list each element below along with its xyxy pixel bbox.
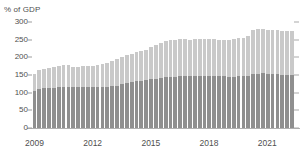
bar xyxy=(81,66,85,128)
bar-segment-lower xyxy=(33,91,37,128)
bar-segment-lower xyxy=(62,87,66,128)
bar-segment-upper xyxy=(290,31,294,75)
bar xyxy=(125,55,129,128)
bar-segment-upper xyxy=(154,45,158,79)
bar xyxy=(217,40,221,128)
bar-segment-upper xyxy=(62,65,66,87)
bar-segment-upper xyxy=(256,29,260,74)
bar xyxy=(120,57,124,128)
bar-segment-upper xyxy=(91,66,95,87)
bar-segment-lower xyxy=(271,74,275,128)
bar-segment-lower xyxy=(135,81,139,128)
bar-segment-upper xyxy=(57,66,61,87)
bar xyxy=(198,39,202,128)
bar-segment-lower xyxy=(159,78,163,128)
bar-segment-lower xyxy=(183,76,187,128)
bar-segment-lower xyxy=(285,75,289,128)
y-axis-tick-mark xyxy=(28,39,32,40)
bar xyxy=(285,31,289,128)
bar-segment-upper xyxy=(193,39,197,76)
bar xyxy=(57,66,61,128)
bar-segment-lower xyxy=(222,76,226,128)
x-axis-tick-label: 2018 xyxy=(200,139,219,148)
bar-segment-upper xyxy=(276,30,280,75)
bar-segment-lower xyxy=(139,81,143,128)
bar xyxy=(227,40,231,128)
y-axis-tick-mark xyxy=(28,75,32,76)
bar-segment-upper xyxy=(71,67,75,87)
bar-segment-upper xyxy=(37,70,41,89)
bar-segment-lower xyxy=(120,84,124,128)
bar xyxy=(164,41,168,128)
bar-segment-lower xyxy=(47,88,51,128)
x-axis-tick-label: 2012 xyxy=(83,139,102,148)
bar xyxy=(42,69,46,128)
x-axis-tick-label: 2021 xyxy=(258,139,277,148)
y-axis-tick-mark xyxy=(28,22,32,23)
bar xyxy=(246,36,250,128)
bar xyxy=(139,51,143,128)
bar-segment-upper xyxy=(164,41,168,77)
y-axis-tick-mark-right xyxy=(294,57,299,58)
bar-segment-upper xyxy=(81,66,85,86)
bar-segment-upper xyxy=(271,30,275,74)
bar-segment-upper xyxy=(285,31,289,75)
bar-segment-upper xyxy=(130,54,134,82)
bar-segment-upper xyxy=(183,39,187,76)
bar-segment-lower xyxy=(154,79,158,128)
bar-segment-lower xyxy=(237,76,241,128)
bar-segment-lower xyxy=(280,75,284,128)
bar xyxy=(266,30,270,128)
bar-segment-lower xyxy=(251,74,255,128)
bar-segment-upper xyxy=(33,74,37,91)
bar-segment-upper xyxy=(149,47,153,79)
bar xyxy=(91,66,95,128)
bar-segment-lower xyxy=(37,89,41,128)
bar xyxy=(290,31,294,128)
bar-segment-upper xyxy=(207,39,211,76)
bar-segment-upper xyxy=(159,43,163,78)
bar-segment-lower xyxy=(164,77,168,128)
bar-segment-upper xyxy=(246,36,250,76)
bar xyxy=(33,74,37,128)
bar-segment-upper xyxy=(76,67,80,87)
y-axis-tick-label: 150 xyxy=(15,71,28,79)
bar-segment-upper xyxy=(222,40,226,76)
bar-segment-upper xyxy=(139,51,143,81)
bar-segment-lower xyxy=(96,87,100,128)
bar xyxy=(86,66,90,128)
bar-segment-lower xyxy=(217,76,221,128)
bar-segment-lower xyxy=(178,76,182,128)
y-axis-tick-mark-right xyxy=(294,128,299,129)
bar-segment-lower xyxy=(149,79,153,128)
bar-segment-upper xyxy=(251,30,255,74)
bar-segment-lower xyxy=(125,83,129,128)
bar-segment-lower xyxy=(71,87,75,128)
bar-segment-upper xyxy=(217,40,221,77)
bar xyxy=(207,39,211,128)
bar xyxy=(256,29,260,128)
bar-segment-upper xyxy=(203,39,207,76)
bar xyxy=(130,54,134,128)
plot-area: 05010015020025030020092012201520182021 xyxy=(32,22,294,129)
bar-segment-lower xyxy=(67,87,71,128)
bar-segment-lower xyxy=(52,88,56,128)
bar xyxy=(62,65,66,128)
bar-segment-lower xyxy=(242,76,246,128)
bar-segment-upper xyxy=(101,64,105,87)
bar-segment-upper xyxy=(110,61,114,86)
x-axis-tick-label: 2015 xyxy=(141,139,160,148)
bar xyxy=(276,30,280,128)
bar xyxy=(101,64,105,128)
bar-segment-upper xyxy=(198,39,202,76)
y-axis-tick-mark-right xyxy=(294,22,299,23)
bar-segment-upper xyxy=(47,68,51,88)
y-axis-tick-label: 300 xyxy=(15,18,28,26)
y-axis-tick-mark-right xyxy=(294,75,299,76)
bar-segment-upper xyxy=(188,40,192,77)
bar-segment-lower xyxy=(81,87,85,128)
bar-segment-lower xyxy=(256,74,260,128)
bar-segment-upper xyxy=(178,39,182,76)
bar xyxy=(135,52,139,128)
bar-segment-lower xyxy=(198,76,202,128)
